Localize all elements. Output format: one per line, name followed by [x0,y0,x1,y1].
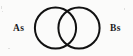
scan-artifact-speck [124,8,125,10]
set-a-circle [35,7,76,48]
scan-artifact-speck [2,11,3,12]
set-b-circle [58,7,99,48]
scan-artifact-speck [1,6,2,9]
set-a-label: As [13,24,24,34]
scan-artifact-speck [8,48,10,49]
set-b-label: Bs [110,24,121,34]
venn-diagram-figure: As Bs [0,0,133,56]
